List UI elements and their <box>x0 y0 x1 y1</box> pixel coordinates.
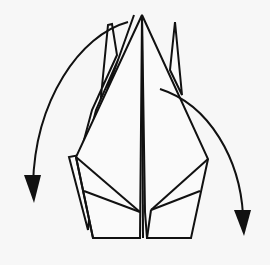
arrowhead-down-icon <box>234 210 251 236</box>
origami-diagram <box>0 0 270 265</box>
arrowhead-down-icon <box>24 175 41 203</box>
center-crease <box>142 15 143 238</box>
